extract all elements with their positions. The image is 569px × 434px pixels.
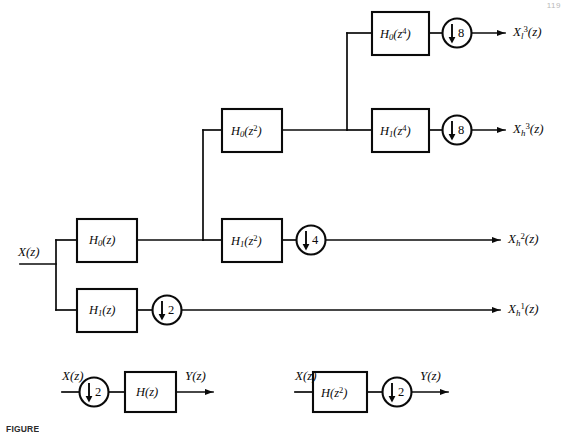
output-label-xh2: Xh2(z) [508,232,539,248]
figure-caption: FIGURE [6,424,39,434]
downsampler-identity-right[interactable] [383,378,412,407]
identity-right-output-label: Y(z) [420,369,441,382]
main-tree-wires [20,33,505,310]
block-label-h0z: H0(z) [89,234,115,248]
output-label-xh3: Xh3(z) [513,122,544,138]
input-label-xz: X(z) [18,245,40,258]
identity-left-output-label: Y(z) [185,369,206,382]
downsampler-down2[interactable] [153,296,182,325]
downsampler-factor-down8b: 8 [458,124,464,137]
block-label-h1z2: H1(z2) [231,234,262,249]
downsampler-down8a[interactable] [443,19,472,48]
figure-root: 119 [0,0,569,434]
identity-right-filter-label: H(z2) [321,386,347,400]
block-label-h1z4: H1(z4) [380,124,411,139]
downsampler-down4[interactable] [297,226,326,255]
identity-left-filter-label: H(z) [136,386,158,399]
identity-left-input-label: X(z) [62,369,84,382]
output-label-xl3: Xl3(z) [513,25,542,41]
identity-left-factor: 2 [95,386,101,399]
block-label-h0z2: H0(z2) [231,124,262,139]
downsampler-factor-down2: 2 [168,304,174,317]
block-label-h0z4: H0(z4) [380,27,411,42]
block-label-h1z: H1(z) [89,304,115,318]
downsampler-factor-down8a: 8 [458,27,464,40]
downsampler-factor-down4: 4 [312,234,318,247]
diagram-canvas [0,0,569,434]
identity-right-factor: 2 [398,386,404,399]
downsampler-down8b[interactable] [443,116,472,145]
output-label-xh1: Xh1(z) [508,302,539,318]
identity-right-input-label: X(z) [295,369,317,382]
